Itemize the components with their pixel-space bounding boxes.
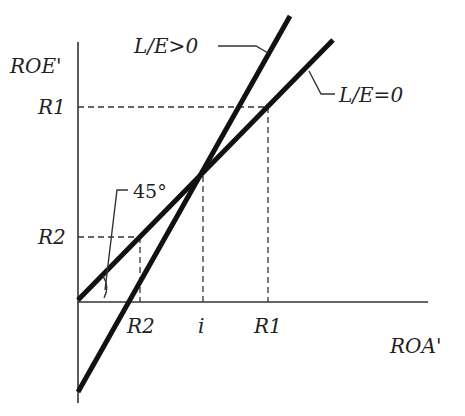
le-positive-leader bbox=[218, 46, 268, 53]
roe-roa-leverage-diagram: ROE' ROA' R1 R2 R2 i R1 L/E>0 L/E=0 45° bbox=[0, 0, 465, 416]
le-zero-leader bbox=[309, 71, 335, 94]
y-tick-r2: R2 bbox=[37, 225, 66, 249]
label-le-zero: L/E=0 bbox=[338, 83, 403, 107]
x-tick-i: i bbox=[198, 314, 204, 338]
label-le-positive: L/E>0 bbox=[133, 34, 198, 58]
x-tick-r1: R1 bbox=[253, 314, 282, 338]
x-axis-label: ROA' bbox=[389, 334, 441, 358]
y-axis-label: ROE' bbox=[9, 54, 62, 78]
angle-leader bbox=[105, 190, 128, 290]
x-tick-r2: R2 bbox=[126, 314, 155, 338]
angle-label: 45° bbox=[133, 180, 167, 202]
y-tick-r1: R1 bbox=[37, 95, 66, 119]
